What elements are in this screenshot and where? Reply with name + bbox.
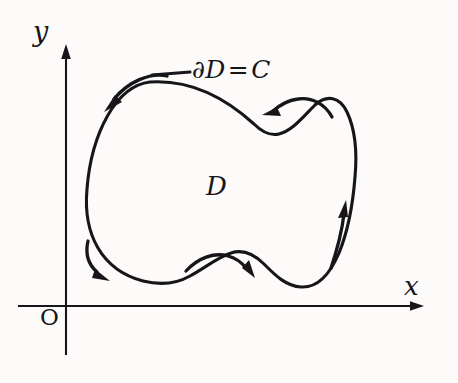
boundary-lhs: ∂D xyxy=(192,55,226,84)
y-axis-label: y xyxy=(33,18,48,45)
x-axis-label: x xyxy=(404,273,419,299)
boundary-label-leader xyxy=(152,72,190,75)
region-label: D xyxy=(206,173,227,199)
y-axis xyxy=(61,44,71,355)
boundary-rhs: C xyxy=(251,55,271,84)
origin-label: O xyxy=(40,306,59,329)
boundary-equals: = xyxy=(226,55,251,84)
boundary-label: ∂D=C xyxy=(192,57,271,82)
figure-canvas: y x O D ∂D=C xyxy=(0,0,458,383)
x-axis xyxy=(18,301,424,310)
